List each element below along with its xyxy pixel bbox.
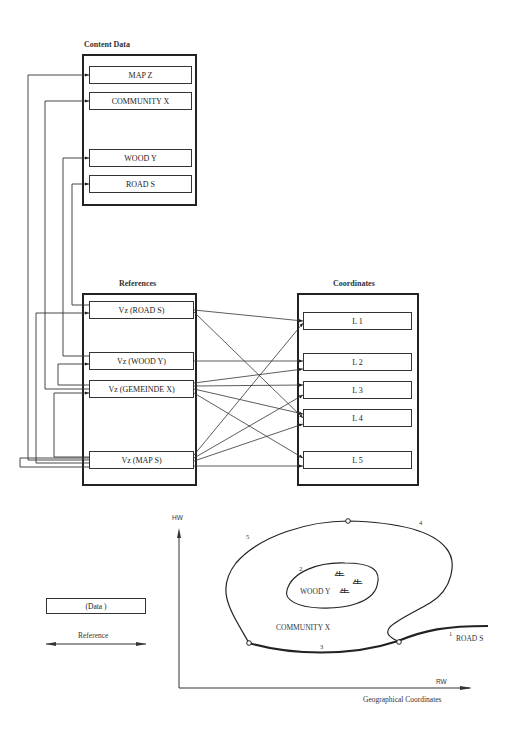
tree-icon: ⺧	[339, 585, 350, 601]
line-number-3: 3	[320, 643, 323, 650]
x-axis-label: RW	[436, 678, 447, 685]
line-number-1: 1	[449, 630, 452, 637]
line-number-4: 4	[419, 519, 422, 526]
tree-icon: ⺧	[334, 568, 345, 584]
line-number-2: 2	[299, 565, 302, 572]
wood-label: WOOD Y	[300, 587, 330, 596]
map-caption: Geographical Coordinates	[363, 695, 442, 704]
road-label: ROAD S	[456, 634, 483, 643]
geographic-map	[0, 0, 515, 732]
tree-icon: ⺧	[352, 576, 363, 592]
y-axis-label: HW	[172, 514, 183, 521]
community-label: COMMUNITY X	[276, 623, 330, 632]
line-number-5: 5	[246, 533, 249, 540]
